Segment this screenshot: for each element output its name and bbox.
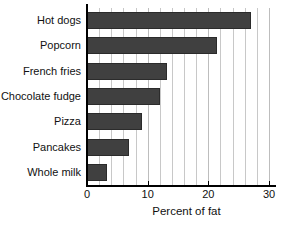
category-label-row: Hot dogs bbox=[0, 8, 85, 33]
bar-row bbox=[87, 33, 269, 58]
x-axis-tick-mark bbox=[208, 181, 209, 186]
x-axis-title-text: Percent of fat bbox=[152, 206, 220, 218]
category-label-row: Pancakes bbox=[0, 134, 85, 159]
x-axis-tick-mark bbox=[87, 181, 88, 186]
category-label-row: French fries bbox=[0, 59, 85, 84]
category-axis: Hot dogs Popcorn French fries Chocolate … bbox=[0, 8, 85, 185]
bar-row bbox=[87, 59, 269, 84]
x-axis-tick-label: 0 bbox=[84, 189, 90, 200]
bar-popcorn bbox=[87, 37, 217, 54]
bar-chart: Hot dogs Popcorn French fries Chocolate … bbox=[0, 0, 287, 226]
y-axis-line bbox=[86, 4, 88, 187]
category-label-row: Chocolate fudge bbox=[0, 84, 85, 109]
bar-hot-dogs bbox=[87, 12, 251, 29]
x-axis-tick-label: 30 bbox=[263, 189, 275, 200]
gridline bbox=[269, 8, 270, 185]
bar-french-fries bbox=[87, 63, 167, 80]
category-label-pancakes: Pancakes bbox=[33, 142, 81, 153]
plot-area bbox=[87, 8, 269, 185]
bar-whole-milk bbox=[87, 164, 107, 181]
bar-pancakes bbox=[87, 139, 129, 156]
category-label-whole-milk: Whole milk bbox=[27, 167, 81, 178]
category-label-pizza: Pizza bbox=[54, 116, 81, 127]
bar-row bbox=[87, 160, 269, 185]
x-axis-line bbox=[86, 185, 276, 187]
x-axis-tick-mark bbox=[269, 181, 270, 186]
x-axis-tick-label: 20 bbox=[202, 189, 214, 200]
x-axis-title: Percent of fat bbox=[0, 206, 287, 218]
category-label-hot-dogs: Hot dogs bbox=[37, 15, 81, 26]
category-label-chocolate-fudge: Chocolate fudge bbox=[1, 91, 81, 102]
bar-row bbox=[87, 109, 269, 134]
bar-chocolate-fudge bbox=[87, 88, 160, 105]
bars-layer bbox=[87, 8, 269, 185]
bar-row bbox=[87, 8, 269, 33]
category-label-row: Pizza bbox=[0, 109, 85, 134]
x-axis-tick-mark bbox=[148, 181, 149, 186]
category-label-row: Popcorn bbox=[0, 33, 85, 58]
category-label-popcorn: Popcorn bbox=[40, 40, 81, 51]
bar-row bbox=[87, 84, 269, 109]
category-label-french-fries: French fries bbox=[23, 66, 81, 77]
bar-pizza bbox=[87, 113, 142, 130]
bar-row bbox=[87, 134, 269, 159]
x-axis-tick-label: 10 bbox=[142, 189, 154, 200]
category-label-row: Whole milk bbox=[0, 160, 85, 185]
x-axis-tick-labels: 0102030 bbox=[0, 189, 287, 205]
